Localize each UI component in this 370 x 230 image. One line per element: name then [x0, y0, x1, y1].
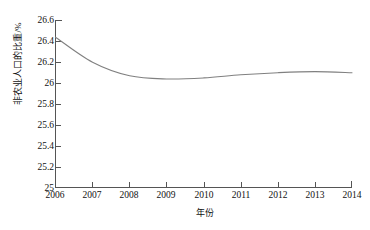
plot-area [0, 0, 370, 230]
chart-figure: 非农业人口的比重/% 年份 26.6 26.4 26.2 26 25.8 25.… [0, 0, 370, 230]
line-series [56, 37, 353, 79]
